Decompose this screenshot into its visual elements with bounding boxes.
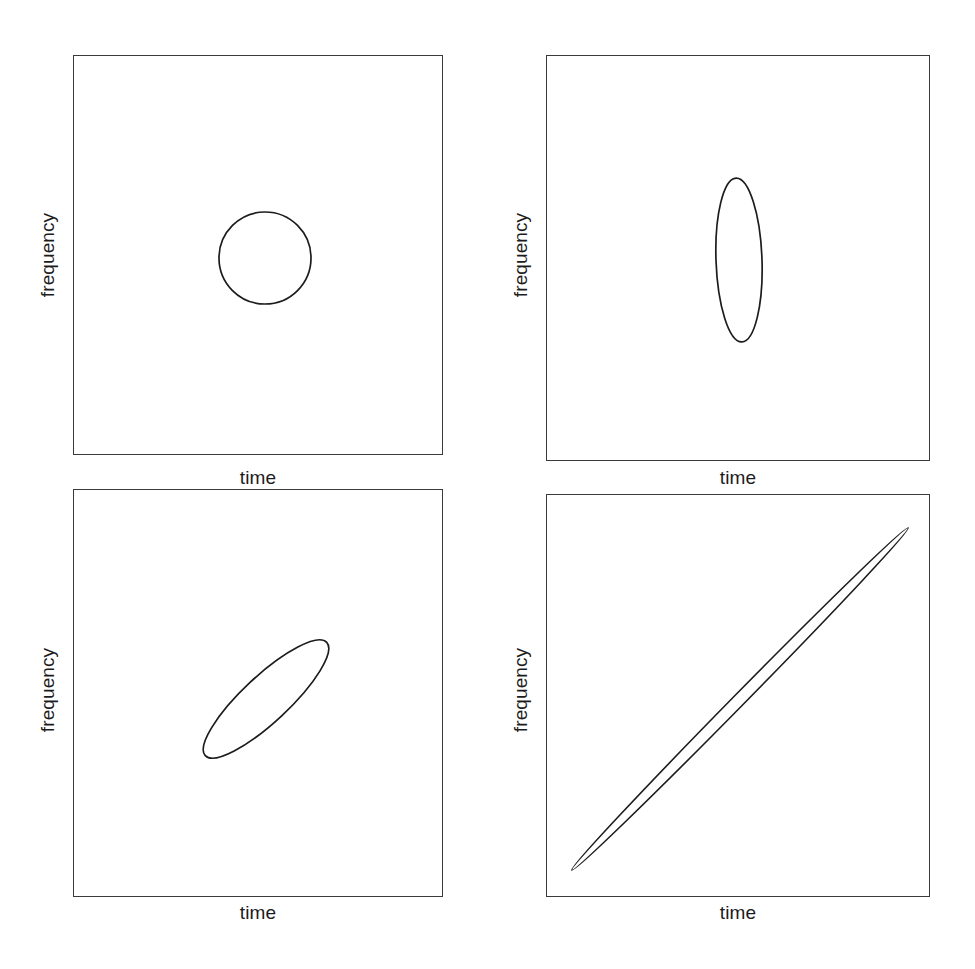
y-axis-label-panel-4: frequency [510,620,532,760]
panel-bottom-left [73,489,443,897]
figure-canvas: time frequency time frequency time frequ… [0,0,975,969]
x-axis-label-panel-2: time [546,467,930,489]
contour-ellipse [219,212,311,304]
panel-top-right [546,55,930,461]
y-axis-label-panel-3: frequency [37,620,59,760]
ellipse-plot-area [546,494,930,897]
panel-bottom-right [546,494,930,897]
ellipse-plot-area [546,55,930,461]
ellipse-plot-area [73,55,443,455]
panel-top-left [73,55,443,455]
y-axis-label-panel-2: frequency [510,185,532,325]
y-axis-label-panel-1: frequency [37,185,59,325]
ellipse-plot-area [73,489,443,897]
contour-ellipse [713,177,765,343]
contour-ellipse [568,524,913,875]
x-axis-label-panel-4: time [546,902,930,924]
x-axis-label-panel-3: time [73,902,443,924]
contour-ellipse [190,626,343,773]
x-axis-label-panel-1: time [73,467,443,489]
